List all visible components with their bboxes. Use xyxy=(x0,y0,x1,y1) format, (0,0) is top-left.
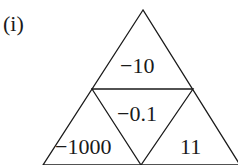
bottom-right-cell-value: 11 xyxy=(180,136,201,158)
bottom-left-cell-value: −1000 xyxy=(55,136,111,158)
center-cell-value: −0.1 xyxy=(117,103,157,125)
top-cell-value: −10 xyxy=(120,55,154,77)
triangle-diagram xyxy=(0,0,238,165)
